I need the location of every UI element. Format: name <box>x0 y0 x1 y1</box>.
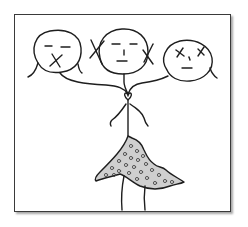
right-head <box>164 40 217 81</box>
left-head <box>28 30 82 77</box>
stick-figure-illustration <box>0 0 248 227</box>
necks <box>60 73 168 94</box>
body <box>110 100 148 136</box>
center-head <box>90 29 153 74</box>
polka-dot-skirt <box>95 136 184 189</box>
heart-icon <box>125 93 132 100</box>
